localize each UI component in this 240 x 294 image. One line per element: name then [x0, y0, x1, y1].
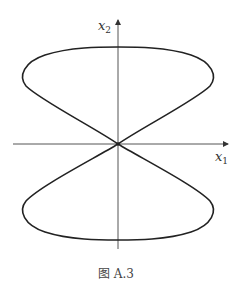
origin-point [116, 142, 120, 146]
figure-caption: 图 A.3 [0, 264, 232, 281]
x1-axis-label: x1 [215, 149, 228, 166]
x2-axis-label: x2 [98, 18, 111, 35]
phase-portrait-diagram: x2 x1 [0, 0, 240, 294]
